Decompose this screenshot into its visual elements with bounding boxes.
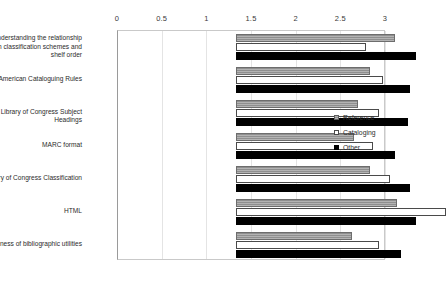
bar-reference (236, 232, 352, 240)
bar-cataloging (236, 43, 366, 51)
legend-label: Cataloging (343, 129, 376, 136)
x-axis-tick-1: 0.5 (156, 14, 167, 23)
bar-other (236, 250, 401, 258)
legend-item-reference[interactable]: Reference (334, 110, 414, 125)
x-axis-tick-5: 2.5 (335, 14, 346, 23)
bar-reference (236, 100, 358, 108)
legend-swatch-icon (334, 130, 339, 135)
category-label: HTML (0, 207, 82, 215)
category-row: Anglo-American Cataloguing Rules (118, 64, 384, 97)
legend-swatch-icon (334, 145, 339, 150)
legend-item-other[interactable]: Other (334, 140, 414, 155)
category-label: Anglo-American Cataloguing Rules (0, 75, 82, 83)
bar-other (236, 52, 416, 60)
category-label: Awareness of bibliographic utilities (0, 240, 82, 248)
category-row: Understanding the relationship between c… (118, 31, 384, 64)
x-axis-tick-6: 3 (383, 14, 387, 23)
bar-cataloging (236, 175, 390, 183)
legend-swatch-icon (334, 115, 339, 120)
category-label: Library of Congress Subject Headings (0, 108, 82, 124)
category-label: Library of Congress Classification (0, 174, 82, 182)
bar-reference (236, 34, 395, 42)
bar-reference (236, 199, 397, 207)
category-label: Understanding the relationship between c… (0, 34, 82, 59)
x-axis-tick-0: 0 (115, 14, 119, 23)
category-row: Library of Congress Classification (118, 162, 384, 195)
bar-cataloging (236, 241, 379, 249)
category-row: HTML (118, 195, 384, 228)
x-axis-tick-2: 1 (204, 14, 208, 23)
bar-group (236, 166, 384, 193)
bar-group (236, 67, 384, 94)
legend-label: Reference (343, 114, 374, 121)
x-axis-tick-4: 2 (293, 14, 297, 23)
x-axis-tick-3: 1.5 (245, 14, 256, 23)
bar-cataloging (236, 76, 383, 84)
category-label: MARC format (0, 141, 82, 149)
x-axis-tick-labels: 00.511.522.53 (117, 14, 385, 30)
bar-group (236, 199, 384, 226)
legend-item-cataloging[interactable]: Cataloging (334, 125, 414, 140)
bar-reference (236, 166, 370, 174)
legend-label: Other (343, 144, 360, 151)
bar-group (236, 34, 384, 61)
bar-reference (236, 67, 370, 75)
bar-other (236, 217, 416, 225)
bar-group (236, 232, 384, 259)
bar-other (236, 184, 410, 192)
category-row: Awareness of bibliographic utilities (118, 228, 384, 261)
bar-cataloging (236, 208, 446, 216)
bar-other (236, 85, 410, 93)
legend: ReferenceCatalogingOther (334, 110, 414, 155)
